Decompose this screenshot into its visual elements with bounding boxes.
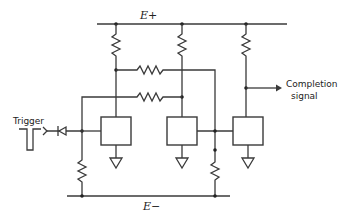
stage-box-2 [167, 117, 197, 145]
diode-icon [59, 127, 66, 135]
circuit-diagram: E+ E− Complet [0, 0, 345, 216]
completion-label-1: Completion [286, 79, 338, 89]
column-3 [242, 22, 250, 117]
stage-box-3 [233, 117, 263, 145]
ground-icon [242, 158, 254, 168]
positive-rail-label: E+ [139, 9, 157, 22]
trigger-label: Trigger [12, 116, 44, 126]
ground-icon [176, 158, 188, 168]
resistor-top-3 [242, 24, 250, 117]
stage-box-1 [101, 117, 131, 145]
pulse-icon [19, 129, 41, 150]
resistor-bottom-1 [78, 131, 86, 196]
input-chevron-icon [43, 127, 47, 135]
ground-icon [110, 158, 122, 168]
arrow-right-icon [276, 85, 282, 92]
completion-label-2: signal [291, 91, 318, 101]
negative-rail-label: E− [142, 200, 160, 213]
